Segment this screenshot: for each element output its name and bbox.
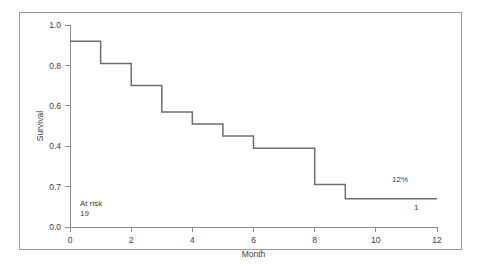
- y-tick-label: 0.6: [49, 101, 61, 111]
- at-risk-label: At risk: [80, 199, 103, 208]
- y-axis-ticks: [65, 25, 70, 227]
- final-at-risk-count: 1: [414, 203, 419, 212]
- at-risk-count: 19: [80, 209, 89, 218]
- final-survival-percent: 12%: [392, 175, 408, 184]
- survival-step-curve: [70, 41, 437, 199]
- x-tick-label: 6: [251, 235, 256, 245]
- y-tick-labels: 1.0 0.8 0.6 0.4 0.7 0.0: [49, 20, 61, 232]
- y-tick-label: 0.8: [49, 61, 61, 71]
- x-axis-ticks: [70, 227, 437, 232]
- y-tick-label: 0.0: [49, 222, 61, 232]
- y-tick-label: 0.7: [49, 182, 61, 192]
- y-tick-label: 0.4: [49, 141, 61, 151]
- chart-canvas: 1.0 0.8 0.6 0.4 0.7 0.0 0 2 4 6 8 10 12 …: [0, 0, 479, 268]
- y-axis-title: Survival: [35, 111, 45, 141]
- x-tick-label: 10: [371, 235, 381, 245]
- x-tick-label: 0: [68, 235, 73, 245]
- x-tick-labels: 0 2 4 6 8 10 12: [68, 235, 442, 245]
- y-tick-label: 1.0: [49, 20, 61, 30]
- x-tick-label: 4: [190, 235, 195, 245]
- x-axis-title: Month: [242, 249, 266, 259]
- x-tick-label: 8: [312, 235, 317, 245]
- survival-chart-figure: 1.0 0.8 0.6 0.4 0.7 0.0 0 2 4 6 8 10 12 …: [0, 0, 479, 268]
- x-tick-label: 12: [432, 235, 442, 245]
- x-tick-label: 2: [129, 235, 134, 245]
